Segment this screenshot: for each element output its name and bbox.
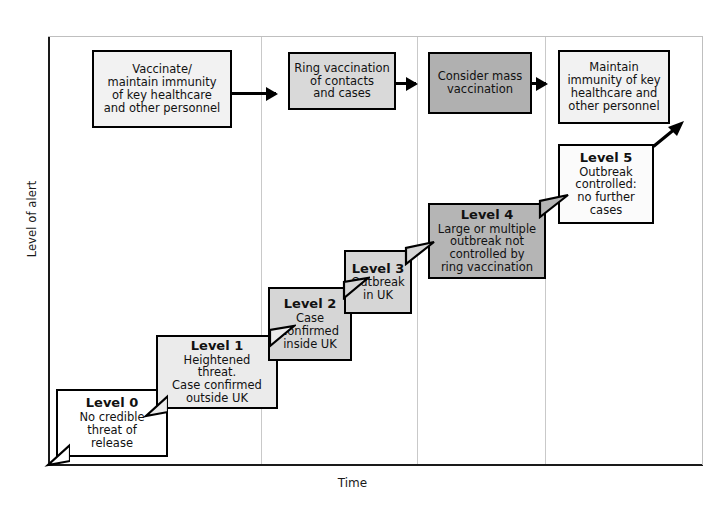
frame-right-border: [702, 36, 703, 465]
action-box-label: Consider massvaccination: [434, 70, 526, 96]
action-box-consider-mass-vaccination[interactable]: Consider massvaccination: [428, 52, 532, 114]
action-box-label: Maintainimmunity of keyhealthcare andoth…: [564, 61, 664, 113]
level-box-content: Level 4 Large or multipleoutbreak notcon…: [434, 208, 540, 274]
level-box-description: Heightenedthreat.Case confirmedoutside U…: [162, 354, 272, 406]
action-box-ring-vaccination[interactable]: Ring vaccinationof contactsand cases: [288, 52, 396, 110]
x-axis-label: Time: [0, 476, 705, 490]
y-axis-label: Level of alert: [25, 159, 39, 279]
action-box-label: Vaccinate/maintain immunityof key health…: [98, 63, 226, 115]
frame-top-border: [48, 36, 703, 37]
x-axis-line: [48, 464, 703, 466]
level-box-level-1[interactable]: Level 1 Heightenedthreat.Case confirmedo…: [156, 335, 278, 409]
level-4-tail-pointer-right: [538, 193, 570, 219]
level-box-content: Level 1 Heightenedthreat.Case confirmedo…: [162, 339, 272, 405]
level-2-tail-pointer-right: [342, 276, 370, 300]
action-box-maintain-immunity[interactable]: Maintainimmunity of keyhealthcare andoth…: [558, 50, 670, 124]
arrow-up-right-icon: [620, 118, 690, 178]
level-box-title: Level 2: [274, 297, 346, 312]
level-box-title: Level 1: [162, 339, 272, 354]
y-axis-line: [48, 36, 50, 466]
level-0-tail-pointer: [44, 443, 70, 469]
level-box-title: Level 4: [434, 208, 540, 223]
level-1-tail-pointer-right: [268, 324, 296, 348]
level-box-description: Large or multipleoutbreak notcontrolled …: [434, 223, 540, 275]
level-box-level-4[interactable]: Level 4 Large or multipleoutbreak notcon…: [428, 203, 546, 279]
action-box-vaccinate-maintain-immunity[interactable]: Vaccinate/maintain immunityof key health…: [92, 50, 232, 128]
arrow-right-icon-3: [532, 82, 546, 85]
level-box-title: Level 3: [350, 262, 406, 277]
arrow-right-icon-1: [232, 92, 276, 95]
action-box-label: Ring vaccinationof contactsand cases: [294, 62, 390, 101]
diagram-canvas: Level of alert Time Vaccinate/maintain i…: [0, 0, 705, 508]
arrow-right-icon-2: [396, 82, 416, 85]
level-1-tail-pointer-left: [142, 394, 168, 420]
level-3-tail-pointer-right: [404, 240, 436, 266]
